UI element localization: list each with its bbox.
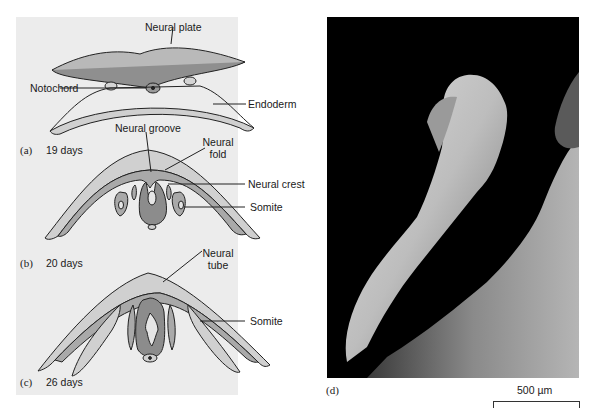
label-somite-c: Somite: [250, 315, 283, 327]
label-neural-plate: Neural plate: [145, 21, 202, 33]
label-neural-crest: Neural crest: [248, 178, 305, 190]
stage-age-c: 26 days: [46, 376, 83, 388]
label-neural-tube: Neural tube: [200, 247, 236, 271]
stage-age-a: 19 days: [46, 144, 83, 156]
panel-letter-c: (c): [20, 376, 46, 388]
scale-bar-label: 500 µm: [517, 384, 552, 396]
scale-bar: [493, 401, 580, 408]
label-neural-fold: Neural fold: [200, 136, 236, 160]
stage-age-b: 20 days: [46, 257, 83, 269]
stage-caption-b: (b)20 days: [20, 257, 83, 269]
stage-caption-a: (a)19 days: [20, 144, 83, 156]
label-neural-fold-line1: Neural: [200, 136, 236, 148]
label-notochord: Notochord: [30, 82, 78, 94]
label-endoderm: Endoderm: [248, 98, 296, 110]
label-neural-groove: Neural groove: [115, 122, 181, 134]
sem-micrograph: [327, 17, 579, 378]
panel-letter-b: (b): [20, 257, 46, 269]
label-somite-b: Somite: [250, 201, 283, 213]
label-neural-tube-line1: Neural: [200, 247, 236, 259]
panel-letter-d: (d): [326, 384, 339, 396]
stage-caption-c: (c)26 days: [20, 376, 83, 388]
label-neural-tube-line2: tube: [200, 259, 236, 271]
panel-letter-a: (a): [20, 144, 46, 156]
stage-a-drawing: [50, 27, 254, 134]
label-neural-fold-line2: fold: [200, 148, 236, 160]
